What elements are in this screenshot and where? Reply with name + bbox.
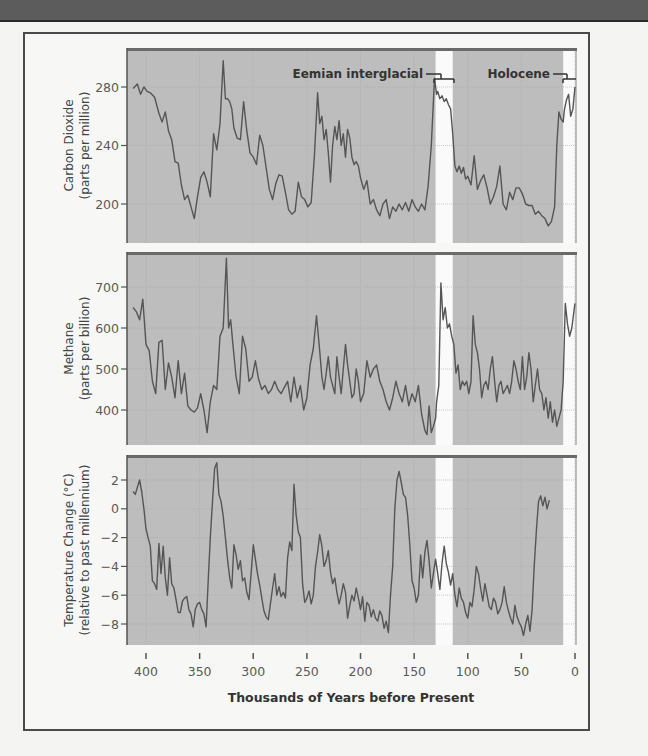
chart-svg: 200240280400500600700−8−6−4−202 Carbon D…: [0, 0, 648, 756]
y-tick-label: 500: [95, 362, 119, 377]
x-tick-label: 200: [349, 664, 373, 679]
interglacial-band: [563, 51, 575, 243]
x-tick-label: 400: [134, 664, 158, 679]
y-tick-label: −6: [101, 588, 119, 603]
y-tick-label: −4: [101, 559, 119, 574]
eemian-label: Eemian interglacial: [293, 67, 423, 81]
holocene-label: Holocene: [487, 67, 550, 81]
panel-temp: −8−6−4−202: [101, 455, 577, 645]
y-tick-label: 2: [111, 473, 119, 488]
y-tick-label: −2: [101, 530, 119, 545]
y-label-units-ch4: (parts per billion): [78, 297, 92, 401]
y-label-units-temp: (relative to past millennium): [78, 465, 92, 636]
y-label-temp: Temperature Change (°C): [62, 473, 76, 627]
y-tick-label: 200: [95, 197, 119, 212]
y-tick-label: −8: [101, 617, 119, 632]
interglacial-band: [563, 458, 575, 645]
y-tick-label: 400: [95, 403, 119, 418]
interglacial-band: [436, 255, 453, 445]
x-tick-label: 100: [456, 664, 480, 679]
y-label-units-co2: (parts per million): [78, 92, 92, 200]
panel-background: [127, 252, 577, 445]
x-tick-label: 300: [241, 664, 265, 679]
x-tick-label: 350: [188, 664, 212, 679]
interglacial-band: [563, 255, 575, 445]
panel-ch4: 400500600700: [95, 252, 577, 445]
y-tick-label: 700: [95, 280, 119, 295]
y-tick-label: 280: [95, 80, 119, 95]
x-tick-label: 50: [513, 664, 529, 679]
y-label-ch4: Methane: [62, 322, 76, 374]
x-tick-label: 0: [571, 664, 579, 679]
y-label-co2: Carbon Dioxide: [62, 99, 76, 191]
x-tick-label: 250: [295, 664, 319, 679]
y-tick-label: 0: [111, 501, 119, 516]
y-tick-label: 600: [95, 321, 119, 336]
x-axis-title: Thousands of Years before Present: [228, 690, 475, 705]
x-axis: 400350300250200150100500: [134, 653, 579, 679]
x-tick-label: 150: [402, 664, 426, 679]
interglacial-band: [436, 51, 453, 243]
y-tick-label: 240: [95, 138, 119, 153]
